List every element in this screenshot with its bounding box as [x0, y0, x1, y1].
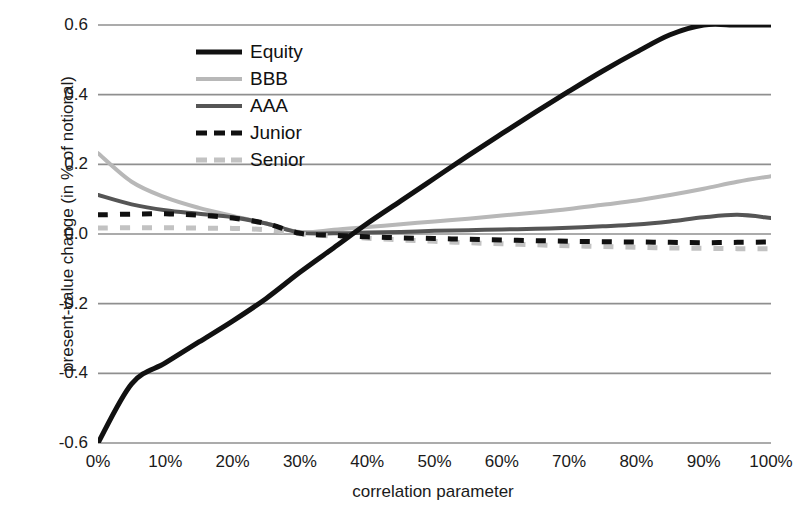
legend-item-label: BBB: [250, 69, 288, 88]
legend-item-label: AAA: [250, 96, 288, 115]
chart-legend: EquityBBBAAAJuniorSenior: [196, 38, 386, 173]
series-line-aaa: [98, 195, 771, 234]
x-tick-label: 70%: [552, 452, 586, 472]
line-chart-plot: [0, 0, 803, 517]
series-line-junior: [98, 214, 771, 243]
x-tick-label: 0%: [86, 452, 111, 472]
solid-black-line-icon: [196, 45, 242, 59]
x-tick-label: 60%: [485, 452, 519, 472]
solid-gray-line-icon: [196, 99, 242, 113]
chart-container: 0.60.40.20.0-0.2-0.4-0.6 0%10%20%30%40%5…: [0, 0, 803, 517]
solid-lightgray-line-icon: [196, 72, 242, 86]
x-tick-label: 80%: [619, 452, 653, 472]
y-axis-title: present-value change (in % of notional): [58, 14, 78, 434]
x-axis-title: correlation parameter: [95, 482, 771, 502]
x-tick-label: 40%: [350, 452, 384, 472]
dashed-black-line-icon: [196, 126, 242, 140]
x-tick-label: 20%: [216, 452, 250, 472]
dashed-lightgray-line-icon: [196, 153, 242, 167]
legend-item-bbb[interactable]: BBB: [196, 65, 386, 92]
x-tick-label: 10%: [148, 452, 182, 472]
x-tick-label: 50%: [417, 452, 451, 472]
legend-item-aaa[interactable]: AAA: [196, 92, 386, 119]
legend-item-label: Junior: [250, 123, 302, 142]
legend-item-label: Equity: [250, 42, 303, 61]
x-tick-label: 100%: [749, 452, 792, 472]
legend-item-senior[interactable]: Senior: [196, 146, 386, 173]
y-tick-label: -0.6: [28, 433, 88, 453]
x-tick-label: 90%: [687, 452, 721, 472]
legend-item-label: Senior: [250, 150, 305, 169]
x-tick-label: 30%: [283, 452, 317, 472]
legend-item-equity[interactable]: Equity: [196, 38, 386, 65]
legend-item-junior[interactable]: Junior: [196, 119, 386, 146]
